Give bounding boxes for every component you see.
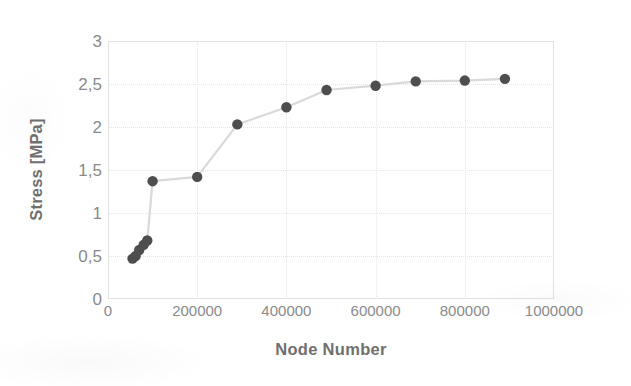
data-point bbox=[460, 75, 470, 85]
data-series-layer bbox=[108, 41, 554, 299]
x-axis-title: Node Number bbox=[108, 340, 554, 359]
data-point bbox=[147, 176, 157, 186]
x-tick-label: 600000 bbox=[351, 303, 401, 318]
y-tick-label: 0,5 bbox=[56, 248, 102, 265]
series-line bbox=[133, 79, 505, 259]
y-tick-label: 1 bbox=[56, 205, 102, 222]
data-point bbox=[411, 76, 421, 86]
y-tick-label: 2 bbox=[56, 119, 102, 136]
y-axis-tick-labels: 00,511,522,53 bbox=[46, 0, 102, 386]
y-tick-label: 3 bbox=[56, 33, 102, 50]
series-markers bbox=[127, 74, 510, 264]
y-tick-label: 0 bbox=[56, 291, 102, 308]
data-point bbox=[192, 172, 202, 182]
x-tick-label: 400000 bbox=[261, 303, 311, 318]
x-tick-label: 800000 bbox=[440, 303, 490, 318]
stress-vs-node-number-chart: Stress [MPa] 00,511,522,53 0200000400000… bbox=[0, 0, 631, 386]
x-tick-label: 200000 bbox=[172, 303, 222, 318]
y-tick-label: 2,5 bbox=[56, 76, 102, 93]
data-point bbox=[500, 74, 510, 84]
data-point bbox=[281, 102, 291, 112]
data-point bbox=[321, 85, 331, 95]
x-tick-label: 1000000 bbox=[525, 303, 583, 318]
x-tick-label: 0 bbox=[104, 303, 112, 318]
y-tick-label: 1,5 bbox=[56, 162, 102, 179]
data-point bbox=[370, 81, 380, 91]
data-point bbox=[142, 235, 152, 245]
data-point bbox=[232, 119, 242, 129]
plot-area bbox=[108, 41, 554, 299]
